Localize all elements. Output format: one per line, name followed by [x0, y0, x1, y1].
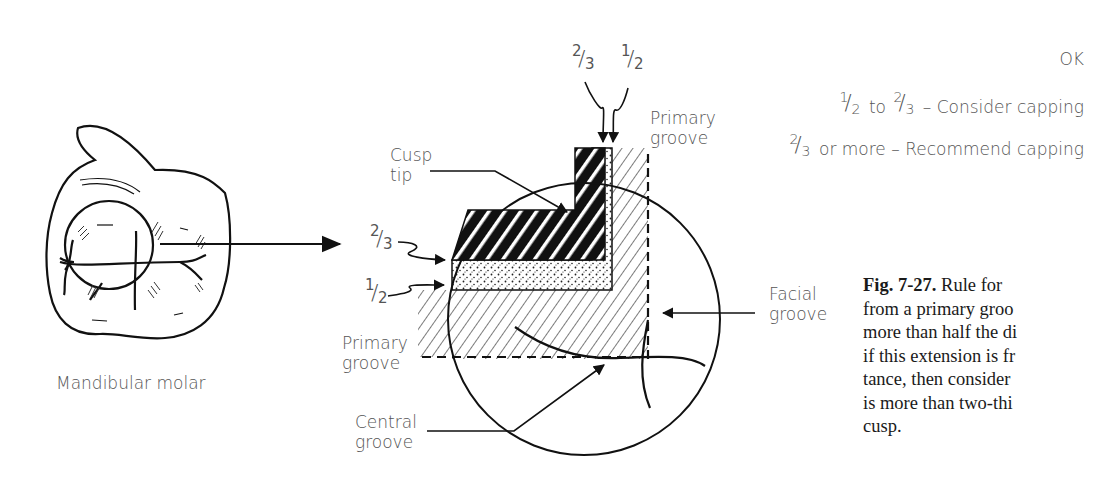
figure-number: Fig. 7-27. [863, 275, 936, 295]
legend-row-ok: OK [1059, 49, 1084, 69]
central-groove-label: Central groove [355, 412, 417, 452]
legend-row-recommend-capping: 2/3 or more – Recommend capping [788, 135, 1084, 161]
mandibular-molar-label: Mandibular molar [56, 373, 206, 393]
molar-outline-icon [46, 126, 230, 338]
figure-caption: Fig. 7-27. Rule for from a primary groo … [863, 274, 1094, 439]
primary-groove-top-label: Primary groove [650, 108, 716, 148]
fraction-two-thirds: 2/3 [788, 135, 814, 161]
facial-groove-label: Facial groove [769, 284, 827, 324]
cusp-tip-label: Cusp tip [390, 145, 432, 185]
fraction-one-half: 1/2 [837, 93, 863, 119]
legend-row-consider-capping: 1/2 to 2/3 – Consider capping [837, 93, 1084, 119]
fraction-two-thirds: 2/3 [891, 93, 917, 119]
detail-view [415, 148, 720, 455]
primary-groove-left-label: Primary groove [342, 333, 408, 373]
